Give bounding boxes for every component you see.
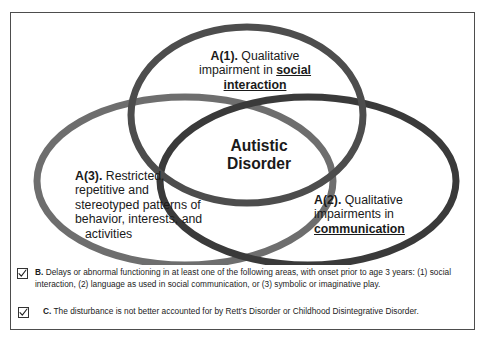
venn-center-label: Autistic Disorder [205,137,313,174]
diagram-page: A(1). Qualitative impairment in social i… [0,0,487,342]
criteria-text-c: C. The disturbance is not better account… [43,305,419,317]
venn-label-a3-line2: repetitive and [75,183,215,197]
venn-center-label-line1: Autistic [205,137,313,155]
criteria-row-c[interactable]: C. The disturbance is not better account… [11,303,476,320]
venn-label-a2: A(2). Qualitative impairments in communi… [314,193,454,236]
venn-label-a1: A(1). Qualitative impairment in social i… [179,49,331,92]
venn-label-a3-line3: stereotyped patterns of [75,198,215,212]
criteria-text-b: B. Delays or abnormal functioning in at … [35,266,470,290]
venn-label-a3-line4: behavior, interests, and [75,212,215,226]
venn-center-label-line2: Disorder [205,155,313,173]
checked-checkbox-icon[interactable] [17,268,28,279]
venn-label-a2-lead: A(2). [314,193,341,207]
venn-diagram: A(1). Qualitative impairment in social i… [11,13,474,265]
venn-label-a2-emphasis: communication [314,222,405,236]
criteria-body-c: The disturbance is not better accounted … [51,306,418,316]
checked-checkbox-icon[interactable] [18,307,29,318]
venn-label-a3-lead: A(3). [75,169,102,183]
criteria-body-b: Delays or abnormal functioning in at lea… [35,267,451,289]
criteria-row-b[interactable]: B. Delays or abnormal functioning in at … [11,264,476,292]
venn-label-a1-lead: A(1). [211,49,238,63]
venn-label-a3-line5: activities [75,227,215,241]
criteria-list: B. Delays or abnormal functioning in at … [11,264,476,320]
venn-label-a3: A(3). Restricted, repetitive and stereot… [75,169,215,241]
venn-label-a3-line1: Restricted, [102,169,164,183]
